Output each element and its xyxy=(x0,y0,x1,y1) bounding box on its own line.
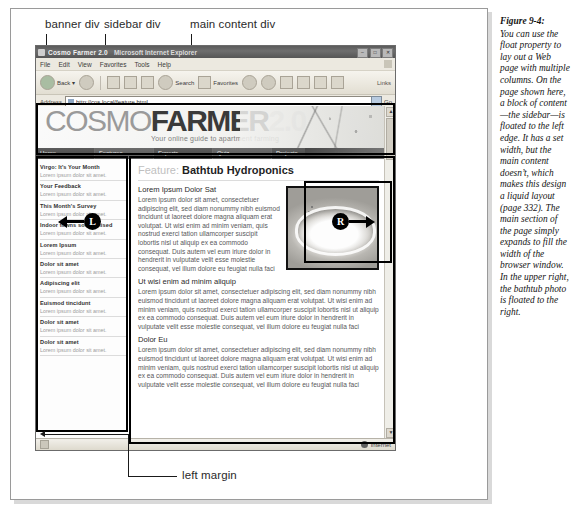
sidebar-item-heading: Dolor sit amet xyxy=(40,339,128,346)
logo-part-cosmo: COSMO xyxy=(45,106,151,137)
links-label[interactable]: Links xyxy=(377,80,391,86)
address-url-text: http://cos.local/feature.html xyxy=(76,99,148,105)
browser-window[interactable]: Cosmo Farmer 2.0 Microsoft Internet Expl… xyxy=(35,45,396,451)
menu-item-file[interactable]: File xyxy=(40,61,50,68)
nav-item-quiz[interactable]: Quiz xyxy=(213,148,272,159)
figure-page: banner div sidebar div main content div … xyxy=(0,0,577,516)
stop-icon[interactable] xyxy=(107,76,120,89)
print-icon[interactable] xyxy=(280,76,293,89)
sidebar-item-heading: Lorem Ipsum xyxy=(40,242,128,249)
back-button[interactable]: Back ▾ xyxy=(40,75,75,90)
globe-icon xyxy=(361,441,368,448)
marker-left-float: L xyxy=(58,213,101,230)
list-item[interactable]: Your Feedback Lorem ipsum dolor sit amet… xyxy=(40,181,128,200)
nav-artwork xyxy=(305,148,385,159)
list-item[interactable]: Euismod tincidunt Lorem ipsum dolor sit … xyxy=(40,298,128,317)
sidebar-item-text: Lorem ipsum dolor sit amet. xyxy=(40,269,128,275)
window-title-app: Microsoft Internet Explorer xyxy=(114,49,197,56)
back-button-label: Back xyxy=(57,80,70,86)
window-title: Cosmo Farmer 2.0 xyxy=(48,49,108,56)
sidebar-item-heading: Your Feedback xyxy=(40,183,128,190)
address-label: Address xyxy=(40,99,62,105)
back-dropdown-icon[interactable]: ▾ xyxy=(72,79,75,86)
figure-number: Figure 9-4: xyxy=(500,16,570,28)
sidebar-item-heading: Euismod tincidunt xyxy=(40,300,128,307)
figure-caption-text: You can use the float property to lay ou… xyxy=(500,29,570,317)
sidebar-item-text: Lorem ipsum dolor sit amet. xyxy=(40,191,128,197)
go-button-label: Go xyxy=(384,99,392,105)
nav-item-features[interactable]: Features xyxy=(95,148,154,159)
callout-main-content-div: main content div xyxy=(190,18,275,30)
figure-caption: Figure 9-4:You can use the float propert… xyxy=(500,16,570,318)
close-button[interactable]: ✕ xyxy=(382,48,393,58)
callout-banner-div: banner div xyxy=(45,18,100,30)
scroll-up-icon[interactable]: ▲ xyxy=(386,107,395,117)
arrow-right-icon xyxy=(366,216,375,228)
list-item[interactable]: Lorem Ipsum Lorem ipsum dolor sit amet. xyxy=(40,240,128,259)
photo-speck xyxy=(311,206,313,208)
list-item[interactable]: Adipiscing elit Lorem ipsum dolor sit am… xyxy=(40,278,128,297)
status-zone-label: Internet xyxy=(371,442,391,448)
list-item[interactable]: Dolor sit amet Lorem ipsum dolor sit ame… xyxy=(40,259,128,278)
sidebar-item-text: Lorem ipsum dolor sit amet. xyxy=(40,230,128,236)
arrow-shaft xyxy=(349,220,366,223)
discuss-icon[interactable] xyxy=(314,76,327,89)
edit-icon[interactable] xyxy=(297,76,310,89)
section-body: Lorem ipsum dolor sit amet, consectetuer… xyxy=(138,346,379,389)
sidebar-item-text: Lorem ipsum dolor sit amet. xyxy=(40,347,128,353)
section-heading: Ut wisi enim ad minim aliquip xyxy=(138,277,379,287)
sidebar-item-text: Lorem ipsum dolor sit amet. xyxy=(40,288,128,294)
menu-item-view[interactable]: View xyxy=(78,61,92,68)
menu-item-edit[interactable]: Edit xyxy=(58,61,69,68)
search-icon xyxy=(158,75,173,90)
marker-badge-l: L xyxy=(84,213,101,230)
sidebar-item-heading: Dolor sit amet xyxy=(40,261,128,268)
menu-bar[interactable]: File Edit View Favorites Tools Help xyxy=(36,58,395,71)
mail-icon[interactable] xyxy=(261,75,276,90)
maximize-button[interactable]: □ xyxy=(370,48,381,58)
page-title: Feature: Bathtub Hydroponics xyxy=(138,163,379,177)
list-item[interactable]: Dolor sit amet Lorem ipsum dolor sit ame… xyxy=(40,317,128,336)
scroll-down-icon[interactable]: ▼ xyxy=(386,428,395,438)
status-zone: Internet xyxy=(361,441,391,448)
search-button[interactable]: Search xyxy=(158,75,194,90)
sidebar-item-heading: Adipiscing elit xyxy=(40,280,128,287)
status-bar: Internet xyxy=(36,438,395,450)
menu-item-favorites[interactable]: Favorites xyxy=(100,61,127,68)
page-body: Virgo: It's Your Month Lorem ipsum dolor… xyxy=(36,159,385,439)
menu-item-tools[interactable]: Tools xyxy=(134,61,149,68)
history-icon[interactable] xyxy=(242,75,257,90)
list-item[interactable]: Virgo: It's Your Month Lorem ipsum dolor… xyxy=(40,162,128,181)
favorites-button[interactable]: Favorites xyxy=(198,76,238,89)
nav-item-home[interactable]: Home xyxy=(36,148,95,159)
refresh-icon[interactable] xyxy=(124,76,137,89)
menu-item-help[interactable]: Help xyxy=(158,61,171,68)
sidebar-item-heading: Virgo: It's Your Month xyxy=(40,164,128,171)
search-button-label: Search xyxy=(175,80,194,86)
page-icon xyxy=(68,99,74,105)
section-heading: Dolor Eu xyxy=(138,335,379,345)
browser-titlebar[interactable]: Cosmo Farmer 2.0 Microsoft Internet Expl… xyxy=(36,46,395,58)
sidebar-item-text: Lorem ipsum dolor sit amet. xyxy=(40,308,128,314)
list-item[interactable]: Dolor sit amet Lorem ipsum dolor sit ame… xyxy=(40,337,128,356)
favorites-button-label: Favorites xyxy=(213,80,238,86)
vertical-scrollbar[interactable]: ▲ ▼ xyxy=(384,106,395,439)
internet-explorer-icon xyxy=(38,49,45,56)
title-divider xyxy=(138,180,379,181)
window-controls[interactable]: – □ ✕ xyxy=(357,48,393,58)
section-body: Lorem ipsum dolor sit amet, consectetuer… xyxy=(138,288,379,331)
minimize-button[interactable]: – xyxy=(357,48,368,58)
leader-line-left-margin-h xyxy=(45,434,129,435)
banner-plant-artwork xyxy=(240,106,385,148)
home-icon[interactable] xyxy=(141,76,154,89)
photo-speck xyxy=(308,211,310,213)
site-nav[interactable]: Home Features Experts Quiz Projects Horo… xyxy=(36,148,385,159)
toolbar-separator xyxy=(100,76,101,90)
nav-item-experts[interactable]: Experts xyxy=(154,148,213,159)
messenger-icon[interactable] xyxy=(331,76,344,89)
toolbar[interactable]: Back ▾ Search Favorites Links xyxy=(36,71,395,95)
scrollbar-thumb[interactable] xyxy=(386,118,395,160)
forward-button[interactable] xyxy=(79,75,94,90)
status-left-icon xyxy=(40,440,49,449)
main-content-div: Feature: Bathtub Hydroponics Lorem Ipsum… xyxy=(131,159,385,439)
